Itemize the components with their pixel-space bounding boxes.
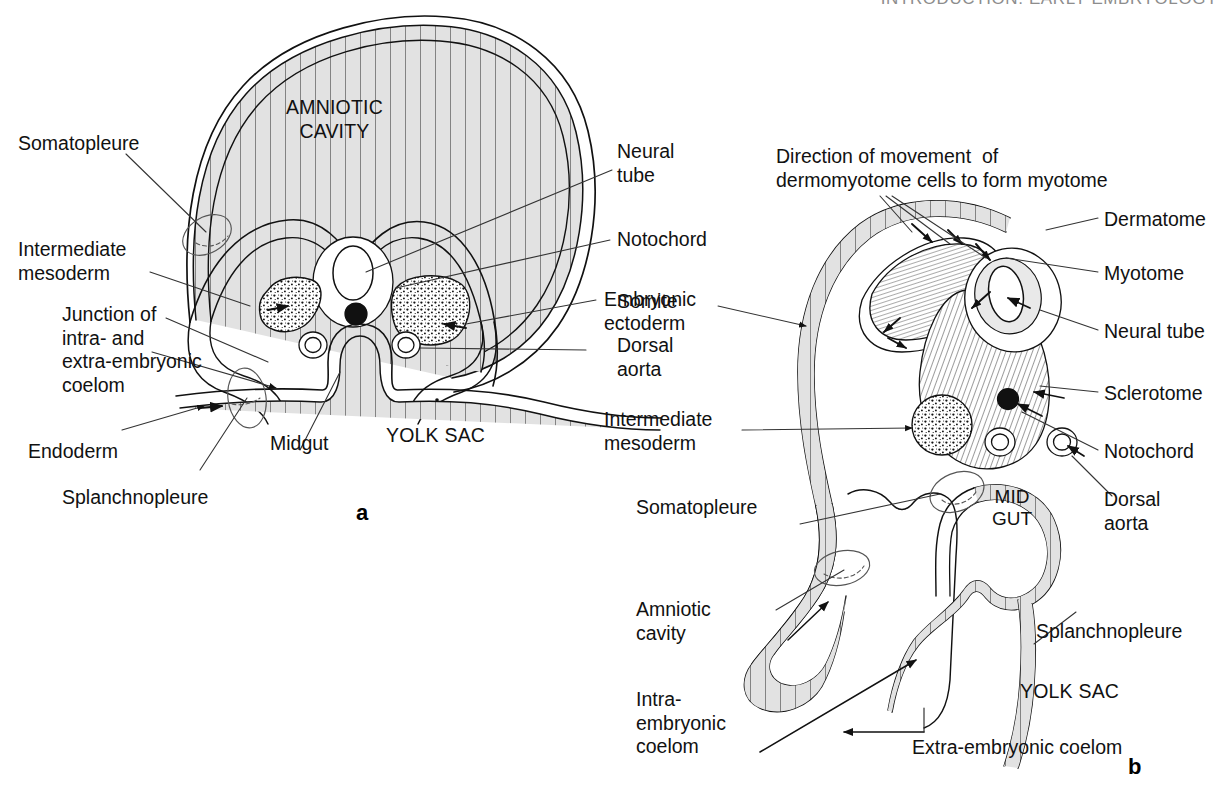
panel-b-notochord-label: Notochord [1104,440,1194,464]
panel-a-neural-tube-label: Neural tube [617,140,674,187]
panel-a-midgut-label: Midgut [270,432,329,456]
panel-b-dorsal-aorta-label: Dorsal aorta [1104,488,1160,535]
panel-b-somatopleure-label: Somatopleure [636,496,757,520]
panel-b-sclerotome-label: Sclerotome [1104,382,1203,406]
panel-b-intermediate-mesoderm-label: Intermediate mesoderm [604,408,712,455]
panel-b-neural-tube-label: Neural tube [1104,320,1205,344]
panel-a-notochord-dot [345,303,367,325]
panel-b-intermediate-mesoderm [912,395,972,455]
panel-b-dorsal-aorta-left [985,428,1015,456]
panel-b-splanchnopleure-label: Splanchnopleure [1036,620,1182,644]
panel-b-mid-gut-label: MID GUT [975,486,1049,530]
panel-a-dorsal-aorta-left [299,332,327,358]
panel-a-intermediate-mesoderm-label: Intermediate mesoderm [18,238,126,285]
figure-artwork [0,0,1217,796]
panel-b-yolk-sac-label: YOLK SAC [1020,680,1119,704]
panel-a-endoderm-label: Endoderm [28,440,118,464]
panel-b-amniotic-cavity-label: Amniotic cavity [636,598,711,645]
panel-a-splanchnopleure-label: Splanchnopleure [62,486,208,510]
panel-b-letter: b [1128,754,1141,780]
panel-a-artwork [122,16,662,470]
panel-b-intra-embryonic-coelom-label: Intra- embryonic coelom [636,688,726,759]
panel-a-letter: a [356,500,368,526]
panel-a-yolk-sac-label: YOLK SAC [386,424,485,448]
panel-b-notochord-dot [998,389,1019,410]
panel-b-somatopleure-lower [744,504,846,712]
panel-b-myotome-label: Myotome [1104,262,1184,286]
figure-page: INTRODUCTION: EARLY EMBRYOLOGY [0,0,1217,796]
panel-a-dorsal-aorta-label: Dorsal aorta [617,334,673,381]
panel-a-junction-coelom-label: Junction of intra- and extra-embryonic c… [62,303,202,397]
panel-b-embryonic-ectoderm-label: Embryonic ectoderm [604,288,696,335]
panel-b-coelom-outline [848,490,957,728]
panel-a-somatopleure-label: Somatopleure [18,132,139,156]
panel-b-extra-embryonic-coelom-label: Extra-embryonic coelom [912,736,1122,760]
panel-a-dorsal-aorta-right [392,332,420,358]
panel-b-dermatome-label: Dermatome [1104,208,1206,232]
panel-a-amniotic-cavity-label: AMNIOTIC CAVITY [286,96,383,143]
panel-a-notochord-label: Notochord [617,228,707,252]
panel-b-direction-of-movement-label: Direction of movement of dermomyotome ce… [776,145,1108,192]
